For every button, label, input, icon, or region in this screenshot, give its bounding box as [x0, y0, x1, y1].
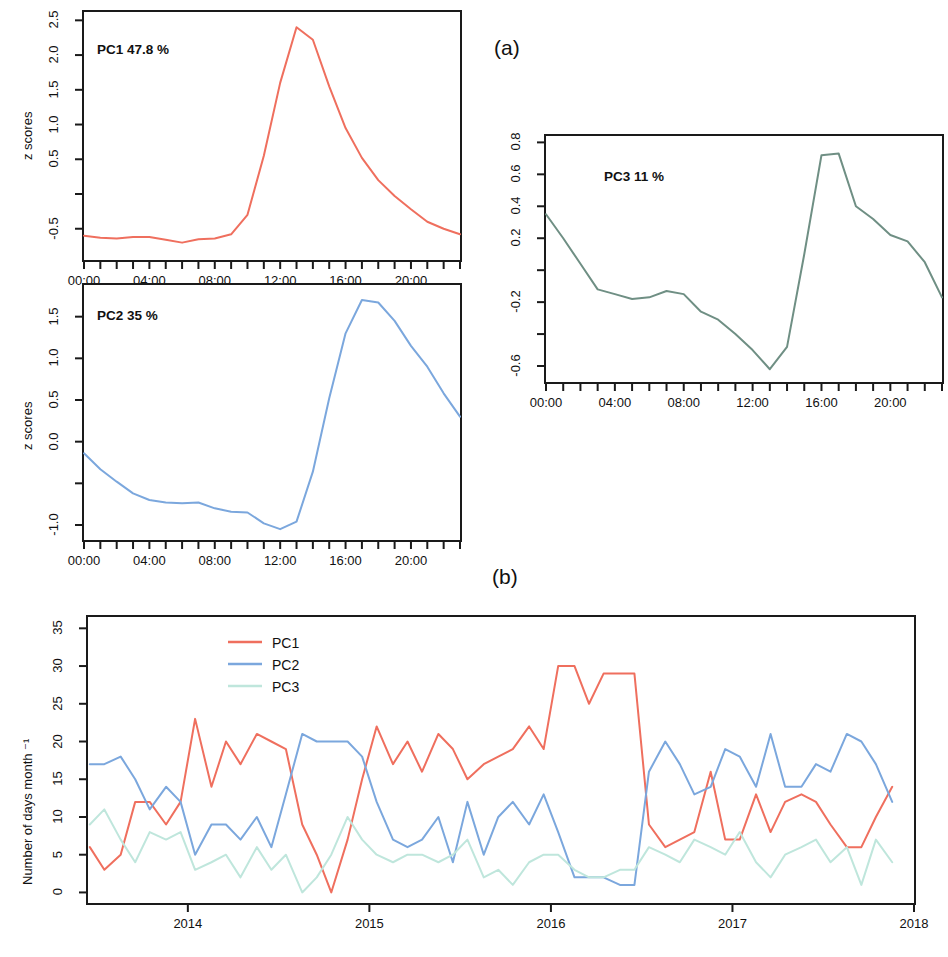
- x-tick-label: 20:00: [850, 395, 930, 410]
- y-tick-label: 0.0: [46, 421, 61, 461]
- x-tick-label: 2018: [874, 916, 948, 931]
- x-tick-label: 2016: [511, 916, 591, 931]
- y-tick-label: 0.5: [46, 139, 61, 179]
- pc2-title: PC2 35 %: [97, 308, 158, 323]
- y-tick-label: 0.5: [46, 380, 61, 420]
- pc1-title: PC1 47.8 %: [97, 42, 169, 57]
- pc3-title: PC3 11 %: [604, 169, 664, 184]
- legend-label-pc1: PC1: [272, 635, 299, 651]
- chart-pc1: z scores PC1 47.8 % 2.52.01.51.00.5-0.50…: [0, 0, 470, 275]
- y-tick-label: -1.0: [46, 505, 61, 545]
- legend-label-pc2: PC2: [272, 657, 299, 673]
- x-tick-label: 20:00: [371, 553, 451, 568]
- x-tick-label: 2017: [692, 916, 772, 931]
- y-tick-label: 0.2: [508, 218, 523, 258]
- y-tick-label: -0.2: [508, 282, 523, 322]
- y-tick-label: 20: [50, 721, 65, 761]
- panel-a-label: (a): [494, 36, 520, 60]
- x-tick-label: 2015: [329, 916, 409, 931]
- panel-b-label: (b): [492, 565, 518, 589]
- x-tick-label: 2014: [148, 916, 228, 931]
- chart-monthly-counts: Number of days month ⁻¹ PC1 PC2 PC3 0510…: [0, 595, 934, 957]
- y-tick-label: -0.5: [46, 208, 61, 248]
- legend-label-pc3: PC3: [272, 679, 299, 695]
- y-tick-label: 0: [50, 872, 65, 912]
- y-tick-label: 35: [50, 608, 65, 648]
- pc2-line-svg: [0, 275, 470, 585]
- y-tick-label: 1.5: [46, 296, 61, 336]
- y-tick-label: 15: [50, 759, 65, 799]
- y-tick-label: 5: [50, 834, 65, 874]
- pc3-line-svg: [460, 112, 934, 422]
- y-tick-label: -0.6: [508, 346, 523, 386]
- monthly-line-svg: [0, 595, 934, 957]
- pc1-line-svg: [0, 0, 470, 275]
- y-tick-label: 1.5: [46, 69, 61, 109]
- chart-pc3: PC3 11 % 0.80.60.40.2-0.2-0.600:0004:000…: [460, 112, 934, 422]
- y-tick-label: 10: [50, 796, 65, 836]
- y-tick-label: 25: [50, 683, 65, 723]
- y-tick-label: 30: [50, 646, 65, 686]
- y-tick-label: 1.0: [46, 338, 61, 378]
- chart-pc2: z scores PC2 35 % 1.51.00.50.0-1.000:000…: [0, 275, 470, 585]
